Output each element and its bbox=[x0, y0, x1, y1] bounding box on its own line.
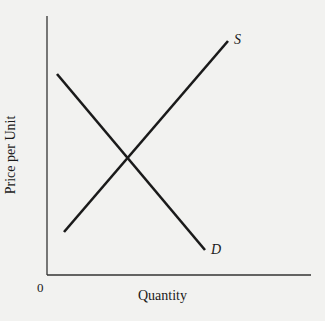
demand-curve bbox=[57, 74, 205, 250]
supply-curve bbox=[64, 41, 228, 232]
supply-demand-diagram bbox=[0, 0, 325, 321]
x-axis-label: Quantity bbox=[138, 288, 187, 304]
demand-curve-label: D bbox=[211, 242, 221, 258]
supply-curve-label: S bbox=[234, 32, 241, 48]
origin-label: 0 bbox=[37, 280, 44, 296]
y-axis-label: Price per Unit bbox=[3, 100, 19, 210]
